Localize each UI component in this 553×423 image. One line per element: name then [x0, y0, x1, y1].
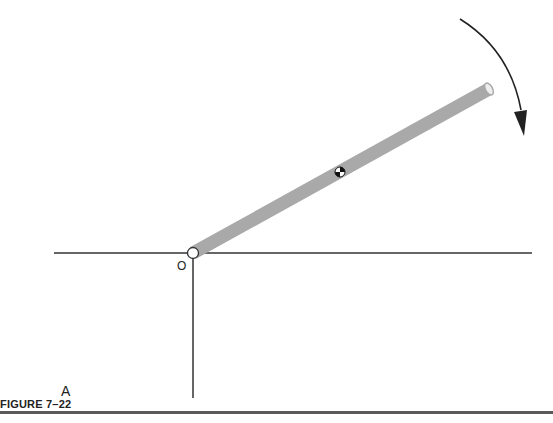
pivot-point: [188, 248, 199, 259]
panel-label: A: [61, 383, 70, 399]
figure-diagram: [0, 0, 553, 423]
pivot-label: O: [177, 259, 186, 273]
center-of-mass-marker-icon: [335, 167, 345, 177]
rod: [193, 82, 495, 253]
caption-divider: [0, 411, 553, 414]
figure-caption: FIGURE 7–22: [0, 398, 71, 410]
clockwise-rotation-arrow-icon: [460, 19, 527, 136]
